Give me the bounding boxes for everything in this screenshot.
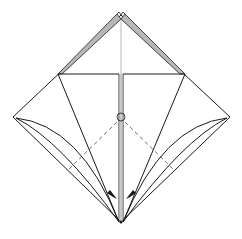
origami-diagram bbox=[0, 0, 242, 239]
top-point-detail bbox=[117, 12, 125, 15]
bottom-point bbox=[120, 221, 123, 224]
top-shaded-layer-right bbox=[121, 14, 185, 74]
valley-fold-line-right bbox=[125, 122, 174, 170]
kite-flap-left bbox=[58, 74, 119, 222]
kite-flap-right bbox=[123, 74, 185, 222]
center-slit-shade bbox=[120, 74, 123, 222]
top-shaded-layer-left bbox=[58, 14, 121, 74]
valley-fold-line-left bbox=[68, 122, 117, 170]
